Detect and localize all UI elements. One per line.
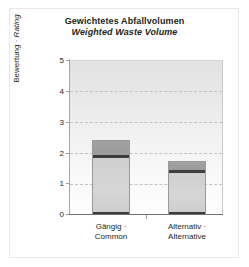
bar-common[interactable]: [92, 140, 130, 215]
bar-common-segment-cap: [92, 140, 130, 155]
y-axis-line: [69, 59, 70, 215]
gridline-4: [70, 91, 222, 92]
chart-title: Gewichtetes Abfallvolumen: [0, 16, 249, 27]
x-axis-label-alternative-line2: Alternative: [142, 232, 232, 242]
y-tick-label-2: 2: [42, 149, 64, 158]
y-axis-label: Bewertung · Rating: [12, 0, 21, 109]
y-tick-label-4: 4: [42, 87, 64, 96]
chart-frame: Gewichtetes Abfallvolumen Weighted Waste…: [0, 0, 249, 267]
gridline-3: [70, 122, 222, 123]
y-tick-label-5: 5: [42, 56, 64, 65]
bar-common-segment-body: [92, 158, 130, 212]
bar-alternative-segment-cap: [168, 161, 206, 170]
chart-subtitle: Weighted Waste Volume: [0, 27, 249, 38]
y-tick-label-1: 1: [42, 179, 64, 188]
x-axis-label-alternative-line1: Alternativ ·: [142, 222, 232, 232]
chart-title-block: Gewichtetes Abfallvolumen Weighted Waste…: [0, 16, 249, 38]
y-tick-label-3: 3: [42, 118, 64, 127]
bar-alternative[interactable]: [168, 161, 206, 215]
x-tick-mark-center: [146, 215, 147, 219]
bar-alternative-segment-body: [168, 173, 206, 212]
plot-area: [70, 60, 223, 215]
weighted-waste-volume-chart: Gewichtetes Abfallvolumen Weighted Waste…: [0, 0, 249, 267]
y-tick-label-0: 0: [42, 210, 64, 219]
y-axis-label-part1: Bewertung ·: [12, 37, 21, 82]
x-axis-label-alternative: Alternativ · Alternative: [142, 222, 232, 242]
y-axis-label-part2: Rating: [12, 14, 21, 37]
